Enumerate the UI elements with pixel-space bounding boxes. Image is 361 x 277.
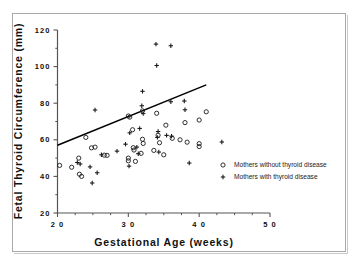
data-point-circle (178, 138, 182, 142)
trend-line-segment (58, 85, 207, 145)
data-point-circle (221, 163, 225, 167)
data-point-circle (58, 163, 62, 167)
chart-svg: 20406080100120 2 03 04 05 0 Gestational … (0, 0, 361, 277)
y-tick-label: 100 (35, 62, 51, 71)
data-point-circle (77, 156, 81, 160)
data-point-circle (204, 110, 208, 114)
data-point-circle (133, 159, 137, 163)
y-axis-ticks: 20406080100120 (35, 26, 58, 218)
data-point-circle (197, 118, 201, 122)
data-point-circle (152, 148, 156, 152)
x-axis-ticks: 2 03 04 05 0 (51, 213, 277, 229)
data-point-circle (170, 136, 174, 140)
series-mothers-with-thyroid-disease (75, 42, 224, 185)
data-point-circle (105, 153, 109, 157)
data-point-circle (185, 140, 189, 144)
data-point-circle (140, 137, 144, 141)
x-tick-label: 4 0 (192, 220, 206, 229)
data-point-circle (141, 141, 145, 145)
x-tick-label: 2 0 (51, 220, 65, 229)
y-tick-label: 40 (40, 172, 51, 181)
trend-line (58, 85, 207, 145)
chart-legend: Mothers without thyroid diseaseMothers w… (221, 161, 327, 181)
x-tick-label: 3 0 (121, 220, 135, 229)
y-tick-label: 80 (40, 99, 51, 108)
data-point-circle (130, 128, 134, 132)
data-point-circle (70, 165, 74, 169)
legend-item-label: Mothers with thyroid disease (234, 173, 318, 181)
data-point-circle (197, 144, 201, 148)
screenshot-root: 20406080100120 2 03 04 05 0 Gestational … (0, 0, 361, 277)
data-point-circle (126, 159, 130, 163)
data-point-circle (84, 135, 88, 139)
series-mothers-without-thyroid-disease (58, 109, 209, 179)
y-axis-title: Fetal Thyroid Circumference (mm) (12, 23, 24, 220)
y-tick-label: 20 (40, 209, 51, 218)
legend-item-label: Mothers without thyroid disease (234, 161, 327, 169)
data-point-circle (162, 153, 166, 157)
y-tick-label: 60 (40, 135, 51, 144)
scatter-chart: 20406080100120 2 03 04 05 0 Gestational … (0, 0, 361, 277)
x-axis-title: Gestational Age (weeks) (94, 236, 233, 248)
x-tick-label: 5 0 (263, 220, 277, 229)
data-point-circle (155, 111, 159, 115)
data-point-circle (164, 123, 168, 127)
data-point-circle (183, 120, 187, 124)
axes (58, 30, 271, 213)
y-tick-label: 120 (35, 26, 51, 35)
data-point-circle (157, 141, 161, 145)
